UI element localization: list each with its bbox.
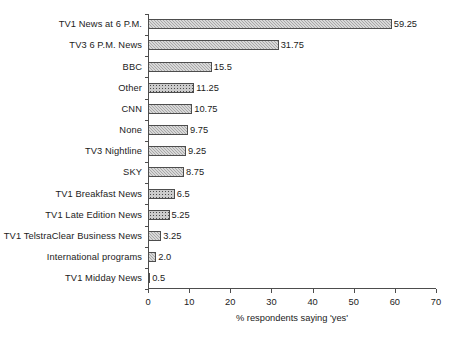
y-axis-tick [145,183,148,184]
bar-value-label: 2.0 [158,252,171,262]
bar-row: TV1 Midday News0.5 [148,268,436,289]
bar-value-label: 9.25 [188,146,206,156]
bar-row: BBC15.5 [148,56,436,77]
bar-row: TV1 Breakfast News6.5 [148,183,436,204]
x-axis-tick [395,289,396,293]
y-axis-tick [145,120,148,121]
y-axis-tick [145,141,148,142]
bar-row: TV3 6 P.M. News31.75 [148,35,436,56]
bar-value-label: 15.5 [214,62,232,72]
category-label: BBC [123,62,142,72]
x-axis-tick-label: 10 [184,297,194,307]
bar-row: CNN10.75 [148,99,436,120]
bar-value-label: 11.25 [196,83,219,93]
y-axis-tick [145,77,148,78]
category-label: TV3 6 P.M. News [69,40,142,50]
bar-row: TV1 TelstraClear Business News3.25 [148,226,436,247]
bar-value-label: 6.5 [177,189,190,199]
category-label: Other [118,83,142,93]
bar: 9.75 [148,125,188,135]
category-label: International programs [47,252,142,262]
bar: 8.75 [148,167,184,177]
y-axis-tick [145,226,148,227]
y-axis-tick [145,14,148,15]
bar-row: International programs2.0 [148,247,436,268]
bar: 2.0 [148,252,156,262]
bar: 3.25 [148,231,161,241]
x-axis-tick-label: 40 [307,297,317,307]
bar-row: TV1 Late Edition News5.25 [148,204,436,225]
x-axis-tick [436,289,437,293]
category-label: TV3 Nightline [85,146,142,156]
x-axis-tick-label: 70 [431,297,441,307]
x-axis-tick [313,289,314,293]
bar: 11.25 [148,83,194,93]
category-label: TV1 Breakfast News [55,189,142,199]
bar: 15.5 [148,62,212,72]
category-label: TV1 Late Edition News [45,210,142,220]
x-axis-tick-label: 0 [145,297,150,307]
bar-value-label: 9.75 [190,125,208,135]
bar: 10.75 [148,104,192,114]
x-axis-tick-label: 50 [349,297,359,307]
bar-row: TV3 Nightline9.25 [148,141,436,162]
category-label: TV1 Midday News [65,273,142,283]
y-axis-tick [145,204,148,205]
x-axis-tick-label: 20 [225,297,235,307]
x-axis-tick [271,289,272,293]
plot-area: TV1 News at 6 P.M.59.25TV3 6 P.M. News31… [148,14,436,289]
y-axis-tick [145,268,148,269]
bar-value-label: 10.75 [194,104,217,114]
bar: 59.25 [148,19,392,29]
bar: 9.25 [148,146,186,156]
x-axis-tick [354,289,355,293]
bar-value-label: 59.25 [394,19,417,29]
x-axis-tick [148,289,149,293]
x-axis-title: % respondents saying 'yes' [236,313,348,323]
category-label: CNN [122,104,142,114]
y-axis-tick [145,162,148,163]
bar: 5.25 [148,210,170,220]
x-axis-tick [189,289,190,293]
category-label: SKY [123,167,142,177]
bar-chart: TV1 News at 6 P.M.59.25TV3 6 P.M. News31… [0,0,456,342]
bar-row: Other11.25 [148,77,436,98]
bar-value-label: 8.75 [186,167,204,177]
bar-value-label: 31.75 [281,40,304,50]
x-axis-tick [230,289,231,293]
x-axis-tick-label: 30 [266,297,276,307]
y-axis-tick [145,99,148,100]
y-axis-tick [145,247,148,248]
y-axis-tick [145,35,148,36]
x-axis-tick-label: 60 [390,297,400,307]
bar-row: None9.75 [148,120,436,141]
bar: 0.5 [148,273,150,283]
bar: 31.75 [148,40,279,50]
category-label: TV1 TelstraClear Business News [4,231,142,241]
category-label: None [119,125,142,135]
category-label: TV1 News at 6 P.M. [59,19,142,29]
bar: 6.5 [148,189,175,199]
bar-value-label: 0.5 [152,273,165,283]
bar-value-label: 3.25 [163,231,181,241]
bar-row: SKY8.75 [148,162,436,183]
bar-value-label: 5.25 [172,210,190,220]
y-axis-tick [145,56,148,57]
bar-row: TV1 News at 6 P.M.59.25 [148,14,436,35]
